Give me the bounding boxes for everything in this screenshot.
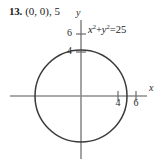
- x-tick-label-6: 6: [131, 98, 141, 108]
- y-axis-label: y: [76, 8, 80, 18]
- y-tick-label-6: 6: [62, 28, 72, 38]
- equation-rhs: 25: [116, 24, 127, 35]
- equation-annotation: x2+y2=25: [88, 24, 126, 36]
- circle-graph: [0, 0, 161, 162]
- x-axis-label: x: [149, 83, 153, 93]
- x-tick-label-4: 4: [113, 98, 123, 108]
- y-tick-label-4: 4: [62, 46, 72, 56]
- figure-panel: 13.(0, 0), 5 y x 6 4 4 6 x2+y2=25: [0, 0, 161, 162]
